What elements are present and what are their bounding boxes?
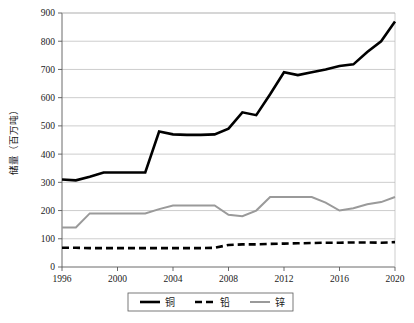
x-tick-label-2012: 2012 bbox=[275, 274, 294, 284]
y-tick-label-800: 800 bbox=[41, 37, 56, 47]
x-tick-label-1996: 1996 bbox=[53, 274, 72, 284]
y-axis-title: 储量（百万吨） bbox=[8, 105, 19, 175]
chart-container: 0100200300400500600700800900199620002004… bbox=[0, 0, 414, 323]
plot-background bbox=[62, 13, 395, 267]
x-tick-label-2016: 2016 bbox=[330, 274, 349, 284]
line-chart: 0100200300400500600700800900199620002004… bbox=[0, 0, 414, 323]
y-tick-label-300: 300 bbox=[41, 178, 56, 188]
y-tick-label-100: 100 bbox=[41, 234, 56, 244]
x-tick-label-2020: 2020 bbox=[386, 274, 405, 284]
x-tick-label-2008: 2008 bbox=[219, 274, 238, 284]
x-tick-label-2000: 2000 bbox=[108, 274, 127, 284]
y-axis-ticks: 0100200300400500600700800900 bbox=[41, 8, 62, 272]
y-tick-label-600: 600 bbox=[41, 93, 56, 103]
legend-label-2: 锌 bbox=[275, 296, 285, 308]
legend-label-1: 铅 bbox=[220, 296, 230, 308]
x-axis-ticks: 1996200020042008201220162020 bbox=[53, 267, 405, 284]
y-tick-label-400: 400 bbox=[41, 150, 56, 160]
x-tick-label-2004: 2004 bbox=[164, 274, 183, 284]
y-tick-label-0: 0 bbox=[50, 262, 55, 272]
legend: 铜铅锌 bbox=[128, 293, 293, 311]
y-tick-label-200: 200 bbox=[41, 206, 56, 216]
y-tick-label-900: 900 bbox=[41, 8, 56, 18]
y-tick-label-700: 700 bbox=[41, 65, 56, 75]
y-tick-label-500: 500 bbox=[41, 121, 56, 131]
legend-label-0: 铜 bbox=[165, 297, 175, 308]
